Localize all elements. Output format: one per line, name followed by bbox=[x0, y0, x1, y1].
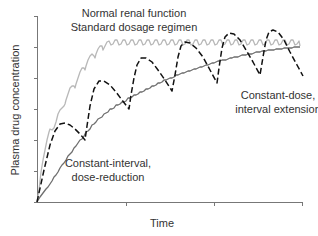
annotation-dose-line2: dose-reduction bbox=[72, 171, 145, 183]
y-axis-label: Plasma drug concentration bbox=[9, 45, 21, 176]
annotation-interval-line2: interval extension bbox=[235, 103, 318, 115]
pk-chart: Normal renal function Standard dosage re… bbox=[0, 0, 318, 236]
x-axis bbox=[34, 203, 303, 207]
annotation-normal-line1: Normal renal function bbox=[82, 7, 187, 19]
annotation-normal-line2: Standard dosage regimen bbox=[71, 21, 198, 33]
annotation-interval-line1: Constant-dose, bbox=[241, 89, 316, 101]
annotation-dose-line1: Constant-interval, bbox=[65, 157, 151, 169]
y-axis bbox=[34, 16, 38, 202]
x-axis-label: Time bbox=[150, 217, 174, 229]
